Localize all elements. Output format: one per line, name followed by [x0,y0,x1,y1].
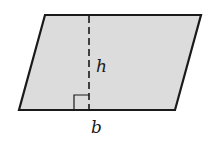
parallelogram-diagram: h b [0,0,209,142]
parallelogram-shape [19,15,201,110]
height-label: h [96,56,107,76]
base-label: b [91,117,102,137]
